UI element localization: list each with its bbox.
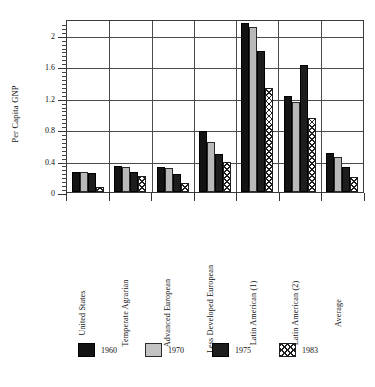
y-axis-tick-minor bbox=[62, 60, 67, 61]
x-axis-tick bbox=[109, 193, 110, 201]
x-axis-labels: United StatesTemperate AgrarianAdvanced … bbox=[66, 205, 364, 313]
y-axis-tick-minor bbox=[62, 159, 67, 160]
bar-1970 bbox=[122, 167, 130, 192]
legend-label: 1975 bbox=[235, 346, 251, 355]
bar-1970 bbox=[80, 172, 88, 192]
legend-label: 1983 bbox=[302, 346, 318, 355]
y-axis-tick-major bbox=[58, 100, 67, 101]
bar-1983 bbox=[181, 183, 189, 192]
y-axis-tick-minor bbox=[62, 166, 67, 167]
legend-swatch-1960 bbox=[78, 343, 95, 357]
bar-group bbox=[152, 21, 194, 192]
legend-swatch-1983 bbox=[279, 343, 296, 357]
y-axis-tick-label: 0.8 bbox=[45, 126, 55, 135]
y-axis-tick-minor bbox=[62, 155, 67, 156]
legend-item: 1970 bbox=[145, 343, 212, 357]
y-axis-labels: 00.40.81.21.62 bbox=[0, 20, 55, 193]
bar-1960 bbox=[326, 153, 334, 192]
y-axis-tick-minor bbox=[62, 45, 67, 46]
y-axis-tick-major bbox=[58, 37, 67, 38]
x-axis-tick bbox=[66, 193, 67, 201]
y-axis-tick-minor bbox=[62, 25, 67, 26]
bar-group bbox=[194, 21, 236, 192]
bar-1983 bbox=[138, 176, 146, 193]
y-axis-tick-minor bbox=[62, 111, 67, 112]
bar-1975 bbox=[215, 154, 223, 192]
bar-1960 bbox=[157, 167, 165, 192]
x-axis-tick bbox=[151, 193, 152, 201]
bar-group bbox=[67, 21, 109, 192]
y-axis-tick-minor bbox=[62, 84, 67, 85]
legend-item: 1983 bbox=[279, 343, 346, 357]
y-axis-tick-minor bbox=[62, 104, 67, 105]
plot-area bbox=[66, 20, 364, 193]
y-axis-tick-minor bbox=[62, 119, 67, 120]
y-axis-tick-minor bbox=[62, 174, 67, 175]
bar-1970 bbox=[165, 168, 173, 192]
bar-1983 bbox=[223, 162, 231, 192]
y-axis-tick-minor bbox=[62, 56, 67, 57]
bar-1975 bbox=[342, 167, 350, 192]
bar-1975 bbox=[88, 173, 96, 192]
bar-groups bbox=[67, 21, 363, 192]
y-axis-tick-minor bbox=[62, 123, 67, 124]
y-axis-tick-minor bbox=[62, 96, 67, 97]
bar-1960 bbox=[114, 166, 122, 192]
bar-1975 bbox=[130, 172, 138, 192]
y-axis-tick-minor bbox=[62, 182, 67, 183]
y-axis-tick-minor bbox=[62, 115, 67, 116]
bar-1983 bbox=[96, 187, 104, 193]
legend-label: 1960 bbox=[101, 346, 117, 355]
bar-1960 bbox=[241, 23, 249, 192]
y-axis-tick-minor bbox=[62, 72, 67, 73]
y-axis-tick-minor bbox=[62, 88, 67, 89]
bar-1960 bbox=[284, 96, 292, 192]
y-axis-tick-minor bbox=[62, 127, 67, 128]
y-axis-tick-minor bbox=[62, 143, 67, 144]
y-axis-tick-minor bbox=[62, 64, 67, 65]
bar-1960 bbox=[199, 131, 207, 192]
y-axis-tick-minor bbox=[62, 178, 67, 179]
y-axis-tick-label: 0.4 bbox=[45, 157, 55, 166]
bar-1970 bbox=[292, 102, 300, 192]
chart-legend: 1960197019751983 bbox=[78, 340, 346, 360]
x-axis-tick bbox=[279, 193, 280, 201]
y-axis-tick-minor bbox=[62, 186, 67, 187]
y-axis-tick-minor bbox=[62, 190, 67, 191]
x-axis-tick bbox=[321, 193, 322, 201]
legend-item: 1975 bbox=[212, 343, 279, 357]
bar-group bbox=[278, 21, 320, 192]
legend-label: 1970 bbox=[168, 346, 184, 355]
legend-swatch-1970 bbox=[145, 343, 162, 357]
x-axis-tick bbox=[364, 193, 365, 201]
y-axis-tick-minor bbox=[62, 147, 67, 148]
y-axis-tick-label: 0 bbox=[51, 189, 55, 198]
x-axis-ticks bbox=[66, 193, 364, 201]
y-axis-tick-minor bbox=[62, 29, 67, 30]
y-axis-tick-minor bbox=[62, 52, 67, 53]
y-axis-tick-minor bbox=[62, 139, 67, 140]
bar-group bbox=[236, 21, 278, 192]
y-axis-tick-minor bbox=[62, 49, 67, 50]
bar-1970 bbox=[334, 157, 342, 192]
bar-1975 bbox=[257, 51, 265, 192]
bar-group bbox=[321, 21, 363, 192]
bar-group bbox=[109, 21, 151, 192]
legend-item: 1960 bbox=[78, 343, 145, 357]
bar-1975 bbox=[173, 174, 181, 192]
y-axis-tick-minor bbox=[62, 108, 67, 109]
y-axis-tick-minor bbox=[62, 135, 67, 136]
x-axis-tick bbox=[194, 193, 195, 201]
y-axis-tick-label: 1.6 bbox=[45, 63, 55, 72]
y-axis-tick-minor bbox=[62, 163, 67, 164]
bar-1970 bbox=[207, 142, 215, 192]
bar-1970 bbox=[249, 27, 257, 192]
y-axis-tick-minor bbox=[62, 92, 67, 93]
y-axis-tick-major bbox=[58, 68, 67, 69]
bar-1975 bbox=[300, 65, 308, 192]
y-axis-tick-minor bbox=[62, 41, 67, 42]
bar-1960 bbox=[72, 172, 80, 192]
bar-chart: Per Capita GNP 00.40.81.21.62 United Sta… bbox=[0, 0, 375, 387]
y-axis-tick-label: 1.2 bbox=[45, 94, 55, 103]
y-axis-tick-label: 2 bbox=[51, 31, 55, 40]
